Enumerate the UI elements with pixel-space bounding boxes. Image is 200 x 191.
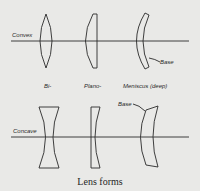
biconcave-lens: [39, 107, 59, 168]
planoconcave-lens: [91, 107, 100, 168]
column-label-plano: Plano-: [84, 83, 101, 89]
lens-diagram: [0, 0, 200, 191]
annotation-base-convex: Base: [160, 59, 174, 65]
row-label-convex: Convex: [12, 32, 32, 38]
figure-caption: Lens forms: [0, 176, 200, 187]
base-leader-line-convex: [149, 58, 160, 62]
base-leader-line-concave: [133, 104, 145, 111]
column-label-bi: Bi-: [44, 83, 51, 89]
meniscus-concave-lens: [141, 106, 159, 167]
annotation-base-concave: Base: [118, 101, 132, 107]
row-label-concave: Concave: [13, 128, 37, 134]
column-label-meniscus: Meniscus (deep): [123, 83, 167, 89]
